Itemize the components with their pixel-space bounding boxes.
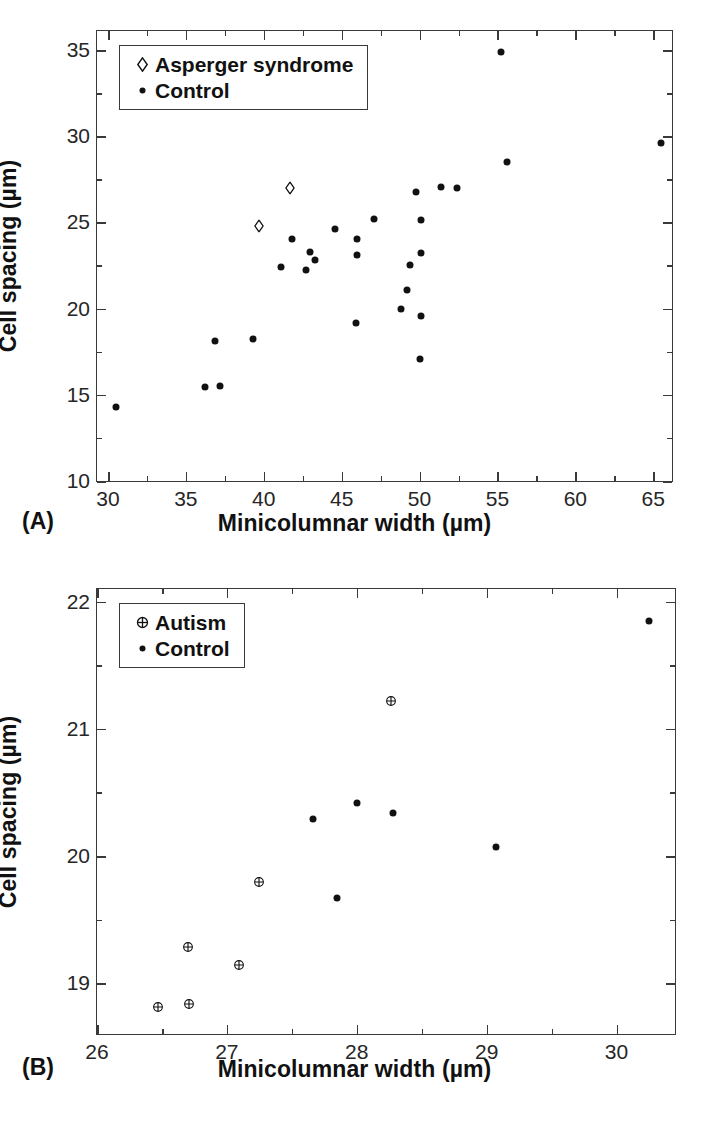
data-point-control [492, 844, 499, 851]
data-point-asperger-syndrome [284, 181, 297, 194]
data-point-control [217, 383, 224, 390]
y-tick-minor [667, 179, 672, 181]
data-point-autism [253, 875, 266, 888]
x-axis-title-b: Minicolumnar width (µm) [0, 1056, 709, 1083]
x-tick-minor [162, 589, 164, 594]
data-point-control [658, 140, 665, 147]
filled-dot-icon [129, 83, 155, 98]
x-tick-major [97, 1025, 99, 1034]
x-tick-label: 60 [564, 487, 587, 511]
data-point-control [390, 809, 397, 816]
x-tick-minor [552, 1029, 554, 1034]
x-tick-minor [422, 589, 424, 594]
y-tick-label: 22 [67, 590, 90, 614]
plot-area-a: Asperger syndrome Control 30354045505560… [96, 30, 673, 482]
x-tick-minor [552, 589, 554, 594]
data-point-asperger-syndrome [253, 218, 266, 231]
data-point-control [497, 48, 504, 55]
data-point-control [201, 384, 208, 391]
x-tick-minor [292, 1029, 294, 1034]
x-tick-minor [422, 1029, 424, 1034]
data-point-control [212, 338, 219, 345]
data-point-control [453, 184, 460, 191]
data-point-control [407, 261, 414, 268]
data-point-control [404, 287, 411, 294]
x-tick-minor [536, 31, 538, 36]
data-point-control [312, 257, 319, 264]
x-tick-major [575, 31, 577, 40]
y-tick-label: 25 [67, 210, 90, 234]
y-tick-label: 15 [67, 383, 90, 407]
x-tick-major [617, 1025, 619, 1034]
y-tick-major [663, 309, 672, 311]
y-tick-major [97, 602, 106, 604]
panel-a: Cell spacing (µm) Asperger syndrome Cont… [0, 0, 709, 560]
data-point-control [503, 159, 510, 166]
legend-label-asperger: Asperger syndrome [155, 54, 353, 75]
x-tick-label: 50 [408, 487, 431, 511]
y-tick-major [97, 395, 106, 397]
open-diamond-icon [129, 57, 155, 72]
y-tick-minor [670, 792, 675, 794]
y-tick-major [666, 856, 675, 858]
plot-area-b: Autism Control 262728293019202122 [96, 588, 676, 1035]
x-tick-major [617, 589, 619, 598]
x-tick-major [227, 589, 229, 598]
y-tick-minor [670, 920, 675, 922]
x-tick-major [357, 589, 359, 598]
x-tick-minor [381, 476, 383, 481]
y-tick-major [97, 983, 106, 985]
x-tick-major [186, 472, 188, 481]
y-axis-title-b: Cell spacing (µm) [0, 662, 22, 962]
data-point-control [371, 215, 378, 222]
x-tick-minor [292, 589, 294, 594]
x-tick-minor [225, 476, 227, 481]
data-point-autism [181, 940, 194, 953]
y-tick-minor [97, 920, 102, 922]
y-tick-major [97, 222, 106, 224]
data-point-autism [232, 958, 245, 971]
x-tick-label: 45 [330, 487, 353, 511]
y-tick-label: 21 [67, 717, 90, 741]
y-tick-minor [97, 93, 102, 95]
y-tick-major [97, 481, 106, 483]
data-point-autism [152, 1000, 165, 1013]
y-tick-major [663, 136, 672, 138]
y-tick-label: 10 [67, 469, 90, 493]
data-point-control [277, 264, 284, 271]
x-tick-minor [225, 31, 227, 36]
data-point-control [352, 320, 359, 327]
x-tick-major [653, 472, 655, 481]
x-tick-major [420, 472, 422, 481]
x-tick-minor [162, 1029, 164, 1034]
y-tick-major [97, 136, 106, 138]
x-tick-minor [381, 31, 383, 36]
x-tick-minor [147, 31, 149, 36]
y-tick-major [666, 602, 675, 604]
legend-b: Autism Control [119, 603, 245, 668]
x-tick-minor [303, 476, 305, 481]
data-point-control [397, 306, 404, 313]
x-tick-major [653, 31, 655, 40]
x-tick-minor [614, 476, 616, 481]
y-tick-minor [670, 665, 675, 667]
x-tick-label: 55 [486, 487, 509, 511]
legend-label-autism: Autism [155, 612, 226, 633]
y-tick-minor [97, 265, 102, 267]
data-point-control [307, 248, 314, 255]
legend-item-autism: Autism [129, 609, 230, 635]
y-tick-label: 35 [67, 38, 90, 62]
x-tick-minor [536, 476, 538, 481]
x-tick-major [264, 472, 266, 481]
data-point-control [249, 335, 256, 342]
y-tick-major [97, 309, 106, 311]
data-point-control [418, 313, 425, 320]
y-tick-minor [667, 93, 672, 95]
data-point-control [309, 816, 316, 823]
data-point-control [112, 403, 119, 410]
y-tick-major [97, 50, 106, 52]
y-tick-label: 30 [67, 124, 90, 148]
x-tick-major [264, 31, 266, 40]
x-axis-title-a: Minicolumnar width (µm) [0, 510, 709, 537]
y-tick-minor [97, 665, 102, 667]
